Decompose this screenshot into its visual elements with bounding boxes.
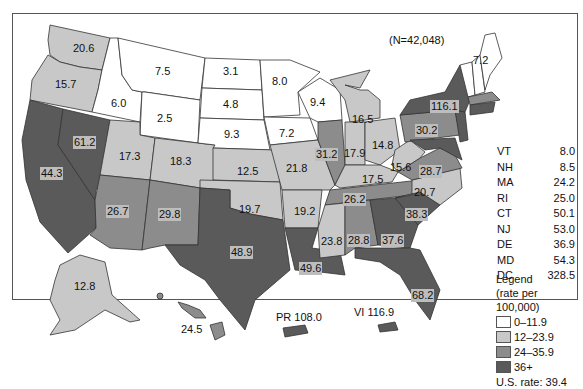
territory-pr (283, 325, 308, 337)
legend-swatch (496, 346, 511, 358)
state-ms (318, 203, 345, 258)
label-nv: 61.2 (73, 136, 96, 149)
label-hi: 24.5 (181, 323, 202, 336)
small-state-row: MD54.3 (497, 253, 575, 269)
label-ar: 19.2 (294, 205, 315, 218)
label-or: 15.7 (55, 78, 76, 91)
label-ms: 23.8 (321, 235, 342, 248)
small-state-row: MA24.2 (497, 175, 575, 191)
label-oh: 14.8 (372, 139, 393, 152)
label-wy: 2.5 (157, 112, 172, 125)
legend-item: 24–35.9 (496, 344, 583, 359)
label-ne: 9.3 (224, 128, 239, 141)
label-ak: 12.8 (74, 280, 95, 293)
state-ak (50, 255, 140, 335)
label-ca: 44.3 (40, 167, 63, 180)
label-vi: VI 116.9 (354, 306, 394, 319)
label-nc: 20.7 (414, 186, 435, 199)
territory-vi (378, 322, 398, 332)
legend-title: Legend (496, 272, 583, 286)
label-wa: 20.6 (73, 42, 94, 55)
label-co: 18.3 (170, 155, 191, 168)
legend-swatch (496, 331, 511, 343)
label-ks: 12.5 (237, 165, 258, 178)
label-me: 7.2 (473, 54, 488, 67)
label-la: 49.6 (299, 262, 322, 275)
label-ny: 116.1 (430, 100, 459, 113)
label-sd: 4.8 (223, 98, 238, 111)
label-ok: 19.7 (239, 203, 260, 216)
legend: Legend (rate per 100,000) 0–11.9 12–23.9… (496, 272, 583, 389)
label-pa: 30.2 (415, 124, 438, 137)
small-state-row: RI25.0 (497, 191, 575, 207)
label-ky: 17.5 (362, 173, 383, 186)
small-state-row: NJ53.0 (497, 222, 575, 238)
legend-subtitle: (rate per 100,000) (496, 286, 583, 314)
legend-item: 12–23.9 (496, 329, 583, 344)
legend-item: 36+ (496, 359, 583, 374)
label-al: 28.8 (347, 234, 370, 247)
label-ia: 7.2 (279, 127, 294, 140)
sample-size-label: (N=42,048) (389, 34, 444, 46)
label-nm: 29.8 (158, 208, 181, 221)
legend-item: 0–11.9 (496, 314, 583, 329)
label-mt: 7.5 (155, 65, 170, 78)
state-hi (210, 322, 225, 340)
hi-islands (178, 302, 206, 318)
label-ut: 17.3 (119, 150, 140, 163)
small-state-row: NH8.5 (497, 160, 575, 176)
label-in: 17.9 (344, 147, 365, 160)
small-state-row: CT50.1 (497, 206, 575, 222)
label-va: 28.7 (419, 165, 442, 178)
hi-island (157, 293, 163, 299)
label-sc: 38.3 (405, 208, 428, 221)
label-wi: 9.4 (310, 96, 325, 109)
small-states-table: VT8.0 NH8.5 MA24.2 RI25.0 CT50.1 NJ53.0 … (497, 144, 575, 284)
label-nd: 3.1 (223, 65, 238, 78)
label-mo: 21.8 (286, 162, 307, 175)
label-tx: 48.9 (230, 246, 253, 259)
label-mn: 8.0 (272, 75, 287, 88)
legend-swatch (496, 361, 511, 373)
small-state-row: DE36.9 (497, 237, 575, 253)
label-il: 31.2 (315, 148, 338, 161)
label-tn: 26.2 (343, 193, 366, 206)
legend-swatch (496, 316, 511, 328)
label-id: 6.0 (111, 97, 126, 110)
us-rate: U.S. rate: 39.4 (496, 375, 583, 389)
label-fl: 68.2 (411, 289, 434, 302)
label-pr: PR 108.0 (276, 311, 322, 324)
label-az: 26.7 (106, 205, 129, 218)
label-ga: 37.6 (381, 234, 404, 247)
small-state-row: VT8.0 (497, 144, 575, 160)
label-wv: 15.6 (390, 161, 411, 174)
label-mi: 16.5 (352, 113, 373, 126)
